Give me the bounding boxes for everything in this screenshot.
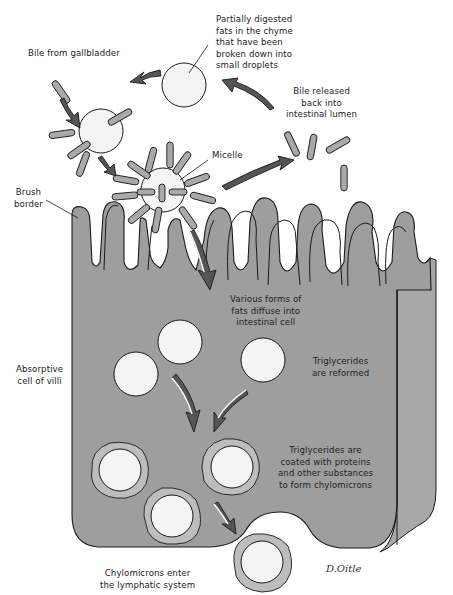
label-line: small droplets <box>216 60 293 72</box>
label-line: Bile from gallbladder <box>28 48 120 60</box>
label-line: Triglycerides are <box>278 445 373 457</box>
label-line: Triglycerides <box>312 356 369 368</box>
label-line: Chylomicrons enter <box>100 568 195 580</box>
label-bile-released: Bile released back into intestinal lumen <box>286 86 357 121</box>
label-line: coated with proteins <box>278 457 373 469</box>
free-bile-rods <box>284 131 351 191</box>
label-various-forms: Various forms of fats diffuse into intes… <box>230 294 301 329</box>
label-bile-from-gallbladder: Bile from gallbladder <box>28 48 120 60</box>
label-triglycerides-reformed: Triglycerides are reformed <box>312 356 369 379</box>
label-line: the lymphatic system <box>100 580 195 592</box>
label-line: Bile released <box>286 86 357 98</box>
label-line: Various forms of <box>230 294 301 306</box>
chylomicron-exiting <box>234 534 292 592</box>
label-line: cell of villi <box>16 376 63 388</box>
label-absorptive-cell: Absorptive cell of villi <box>16 364 63 387</box>
label-line: intestinal cell <box>230 317 301 329</box>
label-partially-digested: Partially digested fats in the chyme tha… <box>216 14 293 72</box>
label-line: intestinal lumen <box>286 109 357 121</box>
label-line: are reformed <box>312 368 369 380</box>
label-line: Micelle <box>212 150 243 162</box>
label-brush-border: Brush border <box>14 187 43 210</box>
label-line: border <box>14 199 43 211</box>
label-triglycerides-coated: Triglycerides are coated with proteins a… <box>278 445 373 491</box>
label-chylomicrons-enter: Chylomicrons enter the lymphatic system <box>100 568 195 591</box>
label-line: broken down into <box>216 49 293 61</box>
label-micelle: Micelle <box>212 150 243 162</box>
label-line: Partially digested <box>216 14 293 26</box>
label-line: Brush <box>14 187 43 199</box>
fat-droplet <box>162 45 208 107</box>
label-line: fats in the chyme <box>216 26 293 38</box>
label-line: back into <box>286 98 357 110</box>
fat-absorption-diagram: Partially digested fats in the chyme tha… <box>0 0 453 595</box>
micelle <box>112 142 217 233</box>
label-line: to form chylomicrons <box>278 480 373 492</box>
artist-signature-visible: D.Oitle <box>326 563 361 574</box>
label-line: Absorptive <box>16 364 63 376</box>
label-line: fats diffuse into <box>230 306 301 318</box>
label-line: and other substances <box>278 468 373 480</box>
label-line: that have been <box>216 37 293 49</box>
bile-coated-droplet <box>49 80 133 178</box>
